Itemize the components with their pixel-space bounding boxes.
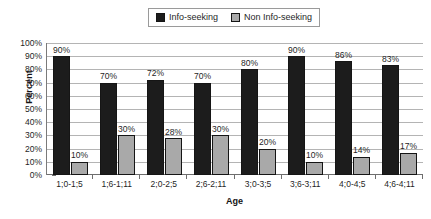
x-axis-title: Age: [46, 196, 423, 206]
bar[interactable]: [241, 69, 258, 175]
gray-square-swatch-icon: [231, 13, 240, 22]
bar-value-label: 90%: [288, 46, 305, 55]
chart-legend: Info-seeking Non Info-seeking: [148, 8, 320, 27]
x-axis-category-label: 2;0-2;5: [140, 180, 187, 189]
bar-slot: 83%: [382, 43, 399, 175]
legend-item-non-info-seeking: Non Info-seeking: [231, 13, 312, 22]
legend-item-info-seeking: Info-seeking: [156, 13, 218, 22]
bar-value-label: 28%: [165, 128, 182, 137]
y-axis-tick-label: 0%: [10, 171, 42, 180]
bar[interactable]: [259, 149, 276, 175]
bar-slot: 90%: [53, 43, 70, 175]
y-axis-tick-label: 100%: [10, 39, 42, 48]
bar[interactable]: [53, 56, 70, 175]
y-axis-tick-label: 10%: [10, 158, 42, 167]
x-axis-category-label: 3;6-3;11: [282, 180, 329, 189]
bar-groups: 90%10%70%30%72%28%70%30%80%20%90%10%86%1…: [47, 43, 423, 175]
bar-value-label: 72%: [147, 69, 164, 78]
x-axis-category-label: 1;0-1;5: [46, 180, 93, 189]
x-axis-labels: 1;0-1;51;6-1;112;0-2;52;6-2;113;0-3;53;6…: [46, 180, 423, 189]
y-axis-tick-label: 70%: [10, 78, 42, 87]
y-axis-tick-label: 20%: [10, 144, 42, 153]
bar[interactable]: [335, 61, 352, 175]
bar[interactable]: [306, 162, 323, 175]
bar-slot: 90%: [288, 43, 305, 175]
y-axis-tick-label: 30%: [10, 131, 42, 140]
bar-value-label: 90%: [53, 46, 70, 55]
bar[interactable]: [147, 80, 164, 175]
x-axis-category-label: 2;6-2;11: [187, 180, 234, 189]
bar-group: 70%30%: [94, 43, 141, 175]
bar-slot: 10%: [71, 43, 88, 175]
bar-value-label: 14%: [353, 146, 370, 155]
bar-slot: 20%: [259, 43, 276, 175]
bar-value-label: 10%: [71, 151, 88, 160]
legend-label-non-info-seeking: Non Info-seeking: [244, 13, 312, 22]
bar[interactable]: [165, 138, 182, 175]
bar-slot: 30%: [118, 43, 135, 175]
bar-group: 86%14%: [329, 43, 376, 175]
bar-group: 90%10%: [47, 43, 94, 175]
bar-value-label: 83%: [382, 55, 399, 64]
bar[interactable]: [118, 135, 135, 175]
bar[interactable]: [353, 157, 370, 175]
x-axis-category-label: 1;6-1;11: [93, 180, 140, 189]
bar-value-label: 80%: [241, 59, 258, 68]
bar[interactable]: [212, 135, 229, 175]
bar[interactable]: [382, 65, 399, 175]
bar-slot: 30%: [212, 43, 229, 175]
bar-value-label: 30%: [118, 125, 135, 134]
bar[interactable]: [100, 83, 117, 175]
plot-area: 90%10%70%30%72%28%70%30%80%20%90%10%86%1…: [46, 43, 423, 175]
bar-slot: 86%: [335, 43, 352, 175]
x-axis-category-label: 4;0-4;5: [329, 180, 376, 189]
bar[interactable]: [194, 83, 211, 175]
bar-slot: 70%: [194, 43, 211, 175]
bar-value-label: 70%: [194, 72, 211, 81]
bar[interactable]: [400, 153, 417, 175]
bar-slot: 80%: [241, 43, 258, 175]
bar-value-label: 10%: [306, 151, 323, 160]
dark-square-swatch-icon: [156, 13, 165, 22]
bar-value-label: 20%: [259, 138, 276, 147]
y-axis-labels: 100%90%80%70%60%50%40%30%20%10%0%: [10, 43, 42, 175]
y-axis-tick-label: 50%: [10, 105, 42, 114]
y-axis-tick-label: 90%: [10, 52, 42, 61]
bar-chart: Info-seeking Non Info-seeking Percent 10…: [0, 0, 431, 219]
y-axis-tick-label: 80%: [10, 65, 42, 74]
bar-value-label: 86%: [335, 51, 352, 60]
bar-slot: 70%: [100, 43, 117, 175]
legend-label-info-seeking: Info-seeking: [169, 13, 218, 22]
bar-group: 80%20%: [235, 43, 282, 175]
bar-slot: 17%: [400, 43, 417, 175]
bar-group: 83%17%: [376, 43, 423, 175]
bar-slot: 72%: [147, 43, 164, 175]
bar[interactable]: [288, 56, 305, 175]
bar-group: 70%30%: [188, 43, 235, 175]
bar-value-label: 17%: [400, 142, 417, 151]
y-axis-tick-label: 40%: [10, 118, 42, 127]
bar-slot: 28%: [165, 43, 182, 175]
bar[interactable]: [71, 162, 88, 175]
bar-slot: 10%: [306, 43, 323, 175]
bar-group: 72%28%: [141, 43, 188, 175]
bar-value-label: 30%: [212, 125, 229, 134]
x-axis-category-label: 3;0-3;5: [235, 180, 282, 189]
bar-group: 90%10%: [282, 43, 329, 175]
bar-slot: 14%: [353, 43, 370, 175]
bar-value-label: 70%: [100, 72, 117, 81]
y-axis-tick-label: 60%: [10, 92, 42, 101]
x-axis-category-label: 4;6-4;11: [376, 180, 423, 189]
